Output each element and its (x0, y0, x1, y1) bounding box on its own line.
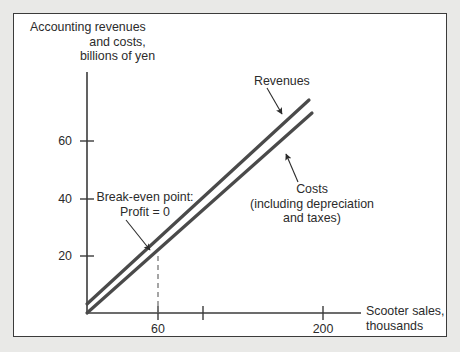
figure-frame: Accounting revenues and costs, billions … (13, 13, 447, 337)
costs-annotation-line-1: Costs (228, 182, 396, 197)
y-axis-caption: Accounting revenues and costs, billions … (30, 20, 205, 64)
ytick-label-60: 60 (42, 134, 72, 149)
costs-arrow (286, 154, 298, 182)
y-axis-caption-line-1: Accounting revenues (30, 20, 205, 35)
break-even-annotation-line-2: Profit = 0 (76, 205, 214, 220)
xtick-label-60: 60 (138, 322, 178, 337)
break-even-annotation-line-1: Break-even point: (76, 190, 214, 205)
y-axis-caption-line-2: and costs, (30, 35, 205, 50)
revenues-annotation-label: Revenues (254, 74, 310, 89)
ytick-label-20: 20 (42, 249, 72, 264)
costs-annotation-line-2: (including depreciation (228, 197, 396, 212)
x-axis-caption: Scooter sales, thousands (366, 304, 452, 333)
costs-annotation: Costs (including depreciation and taxes) (228, 182, 396, 226)
ytick-label-40: 40 (42, 192, 72, 207)
break-even-annotation: Break-even point: Profit = 0 (76, 190, 214, 219)
costs-annotation-line-3: and taxes) (228, 211, 396, 226)
break-even-arrow (126, 220, 150, 250)
y-axis-caption-line-3: billions of yen (30, 49, 205, 64)
revenues-arrow (267, 88, 282, 114)
x-axis-caption-line-1: Scooter sales, (366, 304, 452, 319)
x-axis-caption-line-2: thousands (366, 319, 452, 334)
xtick-label-200: 200 (303, 322, 343, 337)
